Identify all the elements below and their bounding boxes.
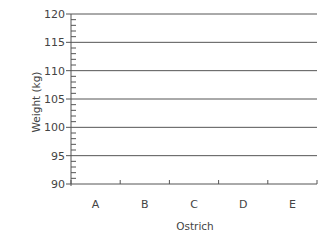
y-tick-label: 110 — [44, 65, 65, 78]
x-tick-label: B — [141, 198, 149, 211]
y-axis-title: Weight (kg) — [30, 72, 42, 133]
y-tick-label: 120 — [44, 8, 65, 21]
y-tick-label: 95 — [51, 150, 65, 163]
x-tick-label: E — [289, 198, 296, 211]
x-axis-title: Ostrich — [176, 220, 214, 232]
x-tick-label: C — [190, 198, 198, 211]
y-tick-label: 100 — [44, 121, 65, 134]
y-tick-label: 105 — [44, 93, 65, 106]
y-tick-label: 90 — [51, 178, 65, 191]
x-tick-label: A — [92, 198, 100, 211]
x-tick-label: D — [239, 198, 247, 211]
y-axis: 9095100105110115120 — [44, 8, 76, 191]
x-axis: ABCDE — [71, 180, 317, 211]
gridlines — [71, 14, 317, 184]
chart: 9095100105110115120 ABCDE Weight (kg) Os… — [0, 0, 321, 236]
y-tick-label: 115 — [44, 36, 65, 49]
